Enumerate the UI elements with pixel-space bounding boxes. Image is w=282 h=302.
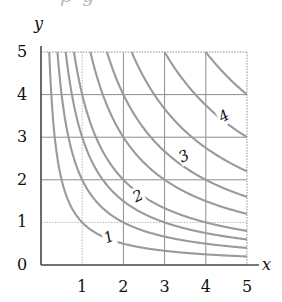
y-tick-label: 5 <box>13 42 31 61</box>
x-tick-label: 4 <box>197 277 215 296</box>
plot-canvas <box>0 0 282 302</box>
y-tick-label: 4 <box>13 85 31 104</box>
y-tick-label: 1 <box>13 212 31 231</box>
y-axis-label: y <box>34 14 43 33</box>
x-tick-label: 3 <box>156 277 174 296</box>
x-tick-label: 2 <box>114 277 132 296</box>
y-tick-label: 3 <box>13 127 31 146</box>
x-tick-label: 5 <box>238 277 256 296</box>
y-tick-label: 0 <box>13 255 31 274</box>
x-axis-label: x <box>262 255 271 274</box>
y-tick-label: 2 <box>13 170 31 189</box>
figure-contour-plot: p g y x 012345 12345 1234 <box>0 0 282 302</box>
x-tick-label: 1 <box>73 277 91 296</box>
